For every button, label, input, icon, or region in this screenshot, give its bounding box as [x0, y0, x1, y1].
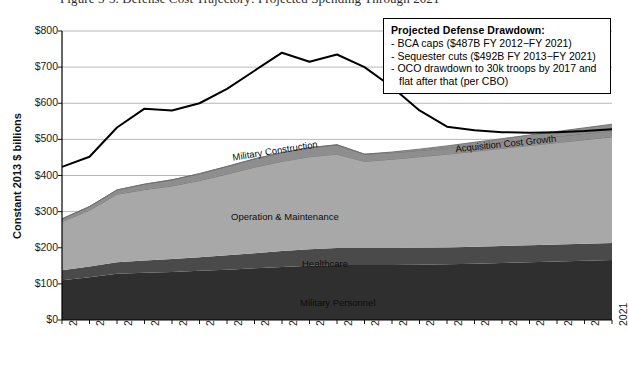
callout-item-2: - OCO drawdown to 30k troops by 2017 and	[391, 62, 603, 75]
callout-item-1: - Sequester cuts ($492B FY 2013−FY 2021)	[391, 50, 603, 63]
callout-title: Projected Defense Drawdown:	[391, 24, 603, 36]
callout-box: Projected Defense Drawdown: - BCA caps (…	[383, 18, 611, 94]
callout-continuation: flat after that (per CBO)	[391, 75, 603, 88]
callout-item-0: - BCA caps ($487B FY 2012−FY 2021)	[391, 37, 603, 50]
